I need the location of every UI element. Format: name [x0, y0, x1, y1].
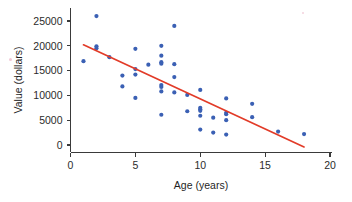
- data-point: [159, 62, 163, 66]
- data-point: [133, 96, 137, 100]
- x-axis-ticks: 05101520: [68, 153, 336, 171]
- data-point: [133, 72, 137, 76]
- x-tick-label: 20: [324, 159, 336, 171]
- data-point: [224, 132, 228, 136]
- data-point: [159, 113, 163, 117]
- data-point: [224, 118, 228, 122]
- data-point: [120, 84, 124, 88]
- x-axis-title: Age (years): [174, 179, 228, 191]
- data-point: [224, 96, 228, 100]
- data-point: [250, 102, 254, 106]
- data-point: [172, 75, 176, 79]
- data-point: [172, 90, 176, 94]
- data-point: [224, 112, 228, 116]
- trend-line: [83, 45, 304, 147]
- data-point: [198, 109, 202, 113]
- data-point: [302, 132, 306, 136]
- y-axis-ticks: 0500010000150002000025000: [33, 15, 70, 151]
- x-tick-label: 0: [68, 159, 74, 171]
- y-tick-label: 10000: [33, 89, 62, 101]
- data-point: [172, 24, 176, 28]
- y-tick-label: 15000: [33, 64, 62, 76]
- y-tick-label: 5000: [39, 114, 63, 126]
- chart-canvas: 0500010000150002000025000 05101520 Value…: [0, 0, 352, 202]
- data-point: [120, 73, 124, 77]
- data-point: [198, 128, 202, 132]
- y-axis-title: Value (dollars): [12, 47, 24, 114]
- data-point: [185, 109, 189, 113]
- x-tick-label: 5: [132, 159, 138, 171]
- y-tick-label: 20000: [33, 40, 62, 52]
- data-point: [159, 54, 163, 58]
- data-point: [211, 131, 215, 135]
- data-point: [198, 88, 202, 92]
- y-tick-label: 25000: [33, 15, 62, 27]
- data-point: [250, 115, 254, 119]
- data-point: [172, 62, 176, 66]
- x-tick-label: 10: [194, 159, 206, 171]
- data-points: [81, 14, 306, 137]
- data-point: [146, 63, 150, 67]
- y-tick-label: 0: [57, 139, 63, 151]
- data-point: [211, 116, 215, 120]
- data-point: [159, 85, 163, 89]
- data-point: [133, 47, 137, 51]
- x-tick-label: 15: [259, 159, 271, 171]
- scatter-plot-figure: 0500010000150002000025000 05101520 Value…: [0, 0, 352, 202]
- data-point: [276, 130, 280, 134]
- data-point: [81, 59, 85, 63]
- data-point: [94, 14, 98, 18]
- data-point: [159, 89, 163, 93]
- data-point: [159, 44, 163, 48]
- data-point: [198, 114, 202, 118]
